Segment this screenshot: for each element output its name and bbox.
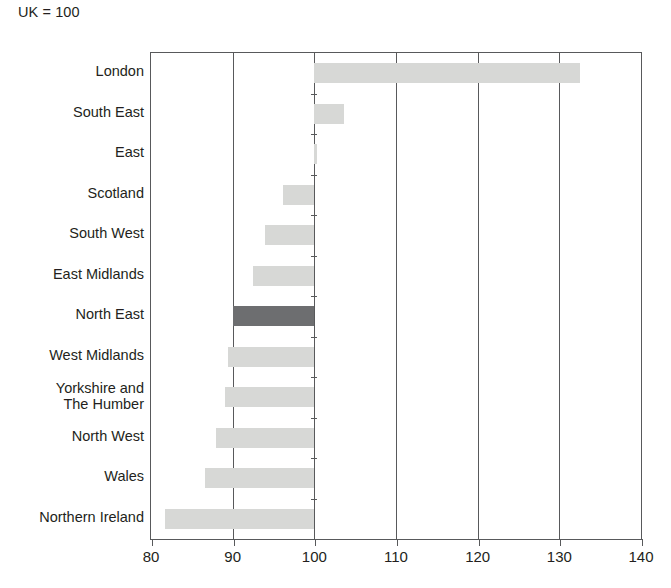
y-axis-label-wales: Wales bbox=[0, 470, 144, 486]
baseline-tick bbox=[311, 296, 317, 297]
bar-north-west bbox=[216, 428, 315, 448]
baseline-tick bbox=[311, 134, 317, 135]
bar-east bbox=[314, 144, 316, 164]
baseline-tick bbox=[311, 499, 317, 500]
baseline-tick bbox=[311, 337, 317, 338]
bar-wales bbox=[205, 468, 314, 488]
y-axis-label-yorkshire-and-the-humber: Yorkshire and The Humber bbox=[0, 381, 144, 412]
bar-west-midlands bbox=[228, 347, 315, 367]
bar-northern-ireland bbox=[165, 509, 314, 529]
x-axis-label-100: 100 bbox=[302, 548, 327, 565]
y-axis-label-east: East bbox=[0, 146, 144, 162]
y-axis-label-south-west: South West bbox=[0, 227, 144, 243]
plot-area bbox=[150, 52, 642, 540]
y-axis-label-east-midlands: East Midlands bbox=[0, 267, 144, 283]
y-axis-label-scotland: Scotland bbox=[0, 186, 144, 202]
x-tick-130 bbox=[560, 539, 561, 546]
bars bbox=[151, 53, 641, 539]
baseline-tick bbox=[311, 215, 317, 216]
y-axis-labels: LondonSouth EastEastScotlandSouth WestEa… bbox=[0, 52, 144, 540]
x-tick-140 bbox=[642, 539, 643, 546]
x-tick-120 bbox=[479, 539, 480, 546]
x-axis-label-110: 110 bbox=[384, 548, 408, 565]
x-tick-110 bbox=[397, 539, 398, 546]
x-tick-90 bbox=[234, 539, 235, 546]
baseline-tick bbox=[311, 418, 317, 419]
x-tick-100 bbox=[315, 539, 316, 546]
baseline-tick bbox=[311, 175, 317, 176]
y-axis-label-northern-ireland: Northern Ireland bbox=[0, 510, 144, 526]
y-axis-label-west-midlands: West Midlands bbox=[0, 348, 144, 364]
x-axis-labels: 8090100110120130140 bbox=[0, 548, 671, 578]
bar-yorkshire-and-the-humber bbox=[225, 387, 314, 407]
x-axis-label-120: 120 bbox=[465, 548, 490, 565]
baseline-tick bbox=[311, 377, 317, 378]
baseline-tick bbox=[311, 458, 317, 459]
x-axis-label-80: 80 bbox=[143, 548, 160, 565]
bar-east-midlands bbox=[253, 266, 314, 286]
y-axis-label-north-east: North East bbox=[0, 308, 144, 324]
y-axis-label-south-east: South East bbox=[0, 105, 144, 121]
x-axis-label-130: 130 bbox=[547, 548, 572, 565]
baseline-tick bbox=[311, 94, 317, 95]
baseline-tick bbox=[311, 256, 317, 257]
bar-chart: UK = 100 LondonSouth EastEastScotlandSou… bbox=[0, 0, 671, 588]
x-axis-label-140: 140 bbox=[628, 548, 653, 565]
chart-note-uk-baseline: UK = 100 bbox=[18, 4, 80, 20]
y-axis-label-north-west: North West bbox=[0, 429, 144, 445]
bar-london bbox=[314, 63, 579, 83]
x-tick-80 bbox=[152, 539, 153, 546]
y-axis-label-london: London bbox=[0, 65, 144, 81]
bar-scotland bbox=[283, 185, 314, 205]
bar-south-east bbox=[314, 104, 343, 124]
bar-south-west bbox=[265, 225, 314, 245]
x-axis-label-90: 90 bbox=[224, 548, 241, 565]
bar-north-east bbox=[233, 306, 315, 326]
